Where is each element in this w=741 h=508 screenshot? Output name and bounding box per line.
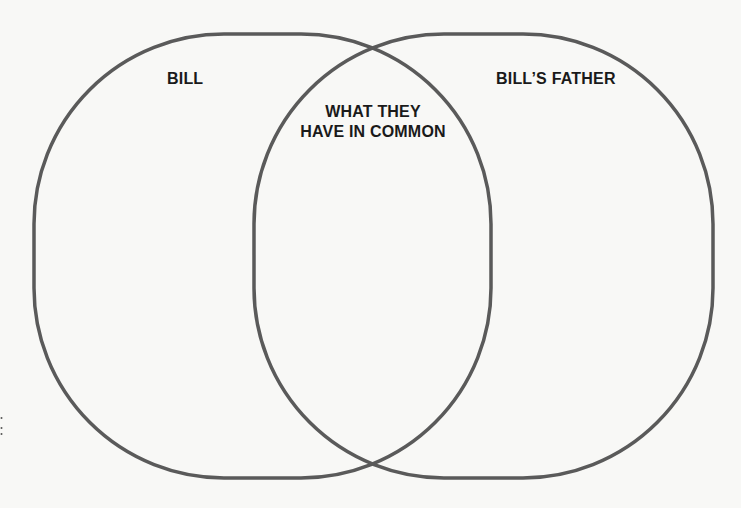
venn-diagram-canvas: BILL BILL’S FATHER WHAT THEY HAVE IN COM… bbox=[0, 0, 741, 508]
set-bill-outline bbox=[34, 34, 491, 478]
set-father-outline bbox=[254, 34, 713, 478]
page-edge-marks bbox=[0, 414, 3, 444]
intersection-label-line2: HAVE IN COMMON bbox=[278, 122, 468, 142]
intersection-label: WHAT THEY HAVE IN COMMON bbox=[278, 102, 468, 142]
set-label-bill: BILL bbox=[167, 69, 203, 89]
venn-shapes bbox=[0, 0, 741, 508]
intersection-label-line1: WHAT THEY bbox=[278, 102, 468, 122]
set-label-bills-father: BILL’S FATHER bbox=[496, 69, 616, 89]
